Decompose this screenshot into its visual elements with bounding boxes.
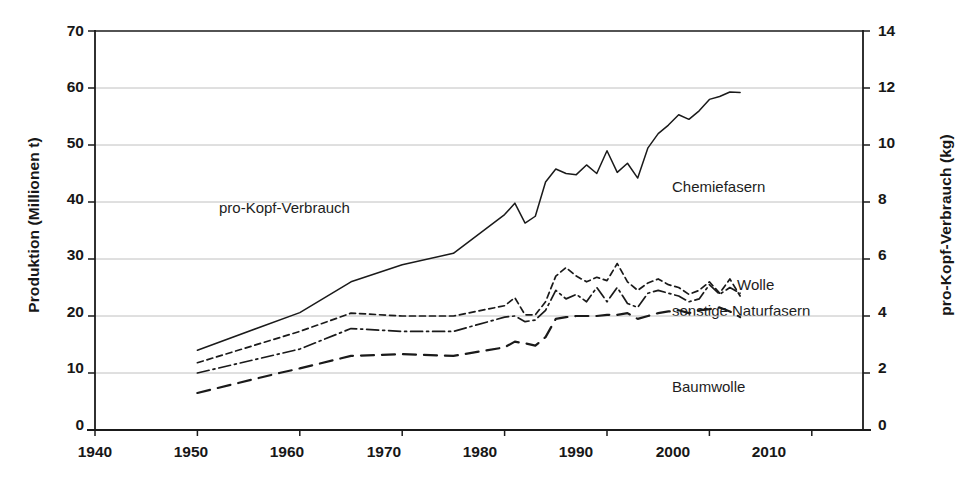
gridlines bbox=[95, 31, 863, 430]
series-lines bbox=[197, 0, 740, 393]
series-line-wolle bbox=[197, 285, 740, 373]
series-line-gesamtproduktion bbox=[197, 92, 740, 350]
